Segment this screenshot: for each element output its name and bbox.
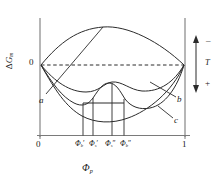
x-axis-end-label: 1	[182, 140, 187, 149]
y-axis-delta: Δ	[4, 63, 14, 69]
tick-prime: ′	[97, 139, 99, 148]
curve-label-b: b	[177, 95, 182, 104]
y-axis-zero-label: 0	[29, 58, 34, 67]
curve-c-path	[41, 65, 184, 122]
y-axis-subscript: m	[8, 53, 14, 57]
x-axis-symbol: Φ	[82, 162, 90, 173]
drop-lines-group	[83, 83, 124, 136]
tick-prime: ″	[128, 139, 131, 148]
free-energy-mixing-figure: ΔGm Φp 0 0 1 Φb′ Φs′ Φs″ Φb″ a b c – T +	[0, 0, 220, 183]
leader-line-a	[46, 27, 103, 94]
temperature-symbol: T	[205, 58, 210, 67]
x-tick-label-phi-b-prime: Φb′	[75, 140, 85, 149]
temperature-arrow-head-down	[193, 85, 199, 93]
y-axis-label: ΔGm	[5, 38, 15, 84]
tick-prime: ′	[83, 139, 85, 148]
temperature-arrow	[193, 35, 199, 93]
tick-prime: ″	[113, 139, 116, 148]
curve-label-c: c	[174, 116, 178, 125]
x-axis-subscript: p	[90, 167, 93, 174]
curve-a-path	[41, 27, 184, 65]
plot-canvas	[0, 0, 220, 183]
temperature-plus-sign: +	[205, 79, 210, 88]
x-tick-label-phi-s-double-prime: Φs″	[105, 140, 116, 149]
x-tick-label-phi-b-double-prime: Φb″	[120, 140, 131, 149]
temperature-arrow-head-up	[193, 35, 199, 43]
x-axis-origin-label: 0	[36, 140, 41, 149]
y-axis-symbol: G	[4, 57, 14, 64]
curve-a2-path	[41, 65, 184, 92]
leader-line-c	[158, 106, 173, 118]
x-axis-label: Φp	[82, 163, 93, 174]
x-tick-label-phi-s-prime: Φs′	[89, 140, 98, 149]
curve-label-a: a	[39, 96, 44, 105]
temperature-minus-sign: –	[206, 36, 211, 45]
